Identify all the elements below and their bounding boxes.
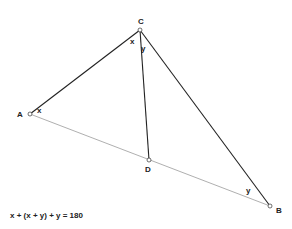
angle-x-at-C: x — [130, 37, 135, 46]
angle-y-at-B: y — [246, 186, 251, 195]
angle-y-at-C: y — [141, 44, 146, 53]
triangle-figure: C A D B x y x y x + (x + y) + y = 180 — [0, 0, 292, 229]
label-D: D — [145, 165, 151, 174]
equation-text: x + (x + y) + y = 180 — [10, 211, 83, 220]
point-D — [147, 158, 151, 162]
label-A: A — [17, 110, 23, 119]
point-C — [138, 28, 142, 32]
geometry-diagram: C A D B x y x y x + (x + y) + y = 180 — [0, 0, 292, 229]
segment-CB — [140, 30, 270, 206]
segment-AC — [30, 30, 140, 114]
point-A — [28, 112, 32, 116]
angle-x-at-A: x — [37, 106, 42, 115]
point-B — [268, 204, 272, 208]
label-C: C — [138, 17, 144, 26]
label-B: B — [276, 206, 282, 215]
